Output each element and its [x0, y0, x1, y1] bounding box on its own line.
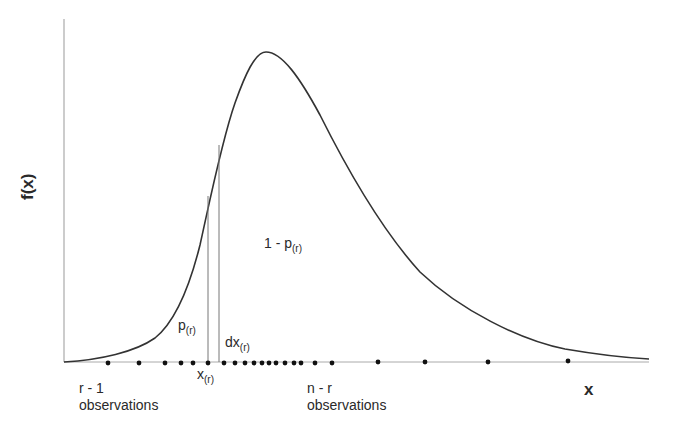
y-axis-label: f(x)	[18, 174, 38, 200]
x-axis-label: x	[584, 381, 593, 398]
x-r-label: x(r)	[197, 367, 214, 385]
left-group-label: r - 1 observations	[79, 380, 158, 414]
p-r-label: p(r)	[178, 318, 196, 336]
density-diagram	[0, 0, 681, 427]
dx-r-label: dx(r)	[225, 335, 250, 353]
density-curve	[64, 52, 649, 362]
one-minus-p-r-label: 1 - p(r)	[264, 236, 302, 254]
right-group-label: n - r observations	[307, 380, 386, 414]
